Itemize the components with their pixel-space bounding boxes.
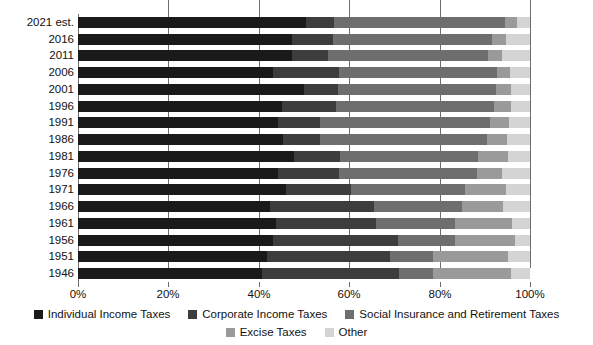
bar-row[interactable] — [78, 67, 530, 78]
bar-segment-series-3[interactable] — [492, 34, 506, 45]
bar-row[interactable] — [78, 151, 530, 162]
bar-segment-series-0[interactable] — [78, 84, 304, 95]
bar-segment-series-2[interactable] — [398, 235, 455, 246]
legend-item[interactable]: Corporate Income Taxes — [188, 308, 327, 320]
bar-segment-series-1[interactable] — [278, 168, 339, 179]
bar-segment-series-2[interactable] — [351, 184, 465, 195]
bar-segment-series-1[interactable] — [294, 151, 340, 162]
bar-segment-series-1[interactable] — [282, 101, 335, 112]
bar-segment-series-0[interactable] — [78, 235, 273, 246]
bar-segment-series-4[interactable] — [508, 151, 530, 162]
bar-segment-series-0[interactable] — [78, 134, 283, 145]
bar-segment-series-0[interactable] — [78, 117, 278, 128]
bar-segment-series-2[interactable] — [340, 151, 478, 162]
bar-segment-series-3[interactable] — [477, 168, 501, 179]
bar-row[interactable] — [78, 201, 530, 212]
bar-segment-series-3[interactable] — [455, 235, 515, 246]
bar-row[interactable] — [78, 50, 530, 61]
bar-segment-series-0[interactable] — [78, 34, 292, 45]
bar-row[interactable] — [78, 184, 530, 195]
bar-segment-series-2[interactable] — [320, 134, 487, 145]
bar-segment-series-4[interactable] — [510, 67, 530, 78]
bar-segment-series-1[interactable] — [270, 201, 374, 212]
bar-segment-series-2[interactable] — [334, 17, 505, 28]
bar-segment-series-4[interactable] — [507, 134, 530, 145]
bar-segment-series-0[interactable] — [78, 17, 306, 28]
bar-segment-series-1[interactable] — [286, 184, 351, 195]
bar-segment-series-1[interactable] — [273, 67, 339, 78]
legend-item[interactable]: Social Insurance and Retirement Taxes — [345, 308, 559, 320]
bar-segment-series-4[interactable] — [502, 50, 530, 61]
bar-segment-series-3[interactable] — [496, 84, 511, 95]
bar-segment-series-2[interactable] — [376, 218, 455, 229]
bar-segment-series-4[interactable] — [511, 101, 530, 112]
legend-item[interactable]: Excise Taxes — [226, 326, 307, 338]
bar-segment-series-4[interactable] — [506, 34, 530, 45]
bar-segment-series-0[interactable] — [78, 67, 273, 78]
bar-row[interactable] — [78, 218, 530, 229]
bar-segment-series-1[interactable] — [262, 268, 399, 279]
bar-row[interactable] — [78, 84, 530, 95]
bar-segment-series-2[interactable] — [333, 34, 491, 45]
bar-segment-series-2[interactable] — [399, 268, 433, 279]
bar-segment-series-2[interactable] — [338, 84, 496, 95]
bar-segment-series-2[interactable] — [339, 67, 496, 78]
bar-segment-series-4[interactable] — [511, 268, 530, 279]
bar-segment-series-1[interactable] — [273, 235, 398, 246]
bar-segment-series-3[interactable] — [465, 184, 505, 195]
bar-row[interactable] — [78, 251, 530, 262]
bar-segment-series-3[interactable] — [488, 50, 502, 61]
bar-segment-series-4[interactable] — [512, 218, 530, 229]
bar-segment-series-1[interactable] — [292, 50, 328, 61]
bar-segment-series-0[interactable] — [78, 50, 292, 61]
legend-item[interactable]: Individual Income Taxes — [34, 308, 171, 320]
bar-segment-series-3[interactable] — [490, 117, 509, 128]
bar-segment-series-1[interactable] — [278, 117, 320, 128]
bar-segment-series-4[interactable] — [511, 84, 530, 95]
bar-segment-series-1[interactable] — [304, 84, 338, 95]
bar-segment-series-1[interactable] — [283, 134, 320, 145]
legend-item[interactable]: Other — [325, 326, 368, 338]
bar-segment-series-4[interactable] — [502, 168, 530, 179]
bar-segment-series-3[interactable] — [505, 17, 517, 28]
bar-row[interactable] — [78, 168, 530, 179]
bar-segment-series-3[interactable] — [455, 218, 512, 229]
bar-segment-series-1[interactable] — [276, 218, 376, 229]
bar-segment-series-4[interactable] — [517, 17, 530, 28]
bar-row[interactable] — [78, 101, 530, 112]
bar-segment-series-4[interactable] — [506, 184, 530, 195]
bar-row[interactable] — [78, 235, 530, 246]
bar-segment-series-4[interactable] — [515, 235, 530, 246]
bar-segment-series-4[interactable] — [508, 251, 530, 262]
bar-segment-series-0[interactable] — [78, 151, 294, 162]
bar-segment-series-1[interactable] — [306, 17, 334, 28]
bar-segment-series-3[interactable] — [433, 251, 508, 262]
bar-segment-series-3[interactable] — [462, 201, 504, 212]
bar-segment-series-3[interactable] — [478, 151, 509, 162]
bar-segment-series-0[interactable] — [78, 168, 278, 179]
bar-segment-series-0[interactable] — [78, 184, 286, 195]
bar-row[interactable] — [78, 117, 530, 128]
bar-segment-series-1[interactable] — [267, 251, 390, 262]
bar-segment-series-0[interactable] — [78, 251, 267, 262]
bar-segment-series-2[interactable] — [336, 101, 495, 112]
bar-segment-series-4[interactable] — [503, 201, 530, 212]
bar-segment-series-2[interactable] — [339, 168, 477, 179]
bar-segment-series-0[interactable] — [78, 101, 282, 112]
bar-segment-series-1[interactable] — [292, 34, 334, 45]
bar-segment-series-0[interactable] — [78, 268, 262, 279]
bar-segment-series-2[interactable] — [374, 201, 462, 212]
bar-row[interactable] — [78, 34, 530, 45]
bar-segment-series-3[interactable] — [433, 268, 511, 279]
bar-segment-series-4[interactable] — [509, 117, 530, 128]
bar-segment-series-2[interactable] — [328, 50, 488, 61]
bar-segment-series-2[interactable] — [390, 251, 433, 262]
bar-segment-series-3[interactable] — [494, 101, 511, 112]
bar-row[interactable] — [78, 134, 530, 145]
bar-segment-series-0[interactable] — [78, 218, 276, 229]
bar-segment-series-3[interactable] — [497, 67, 510, 78]
bar-row[interactable] — [78, 17, 530, 28]
bar-segment-series-3[interactable] — [487, 134, 507, 145]
bar-segment-series-2[interactable] — [320, 117, 490, 128]
bar-row[interactable] — [78, 268, 530, 279]
